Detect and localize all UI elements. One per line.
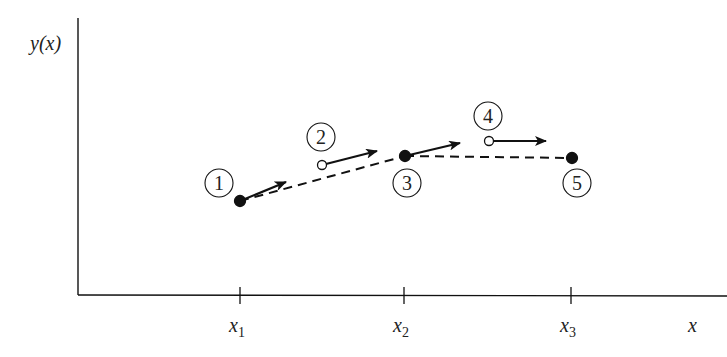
midpoint-method-diagram: y(x) x x1x2x3 12345 (0, 0, 727, 357)
circled-label: 5 (563, 169, 591, 197)
filled-point (567, 153, 578, 164)
circled-label: 3 (393, 169, 421, 197)
tick-label: x2 (392, 314, 409, 340)
filled-point (400, 151, 411, 162)
tick-label: x3 (559, 314, 576, 340)
slope-arrows (240, 141, 546, 201)
filled-point (235, 196, 246, 207)
circled-label: 1 (205, 169, 233, 197)
svg-text:1: 1 (214, 172, 224, 194)
tick-label: x1 (228, 314, 245, 340)
slope-arrow (240, 182, 286, 201)
dashed-segment (405, 156, 572, 158)
circled-label: 4 (474, 102, 502, 130)
circled-label: 2 (307, 123, 335, 151)
point-labels: 12345 (205, 102, 591, 197)
svg-text:2: 2 (316, 126, 326, 148)
x-axis-label: x (687, 314, 697, 336)
svg-text:3: 3 (402, 172, 412, 194)
svg-text:4: 4 (483, 105, 493, 127)
y-axis-label: y(x) (28, 32, 61, 55)
x-axis (78, 295, 727, 296)
slope-arrow (322, 151, 377, 165)
svg-text:5: 5 (572, 172, 582, 194)
open-point (485, 137, 494, 146)
slope-arrow (405, 143, 460, 156)
open-point (318, 161, 327, 170)
